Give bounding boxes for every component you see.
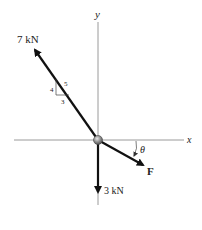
angle-theta-label: θ bbox=[140, 144, 145, 155]
x-axis-label: x bbox=[186, 134, 192, 145]
force-F-label: F bbox=[147, 165, 154, 177]
slope-run-label: 3 bbox=[61, 98, 65, 106]
slope-hyp-label: 5 bbox=[64, 80, 68, 88]
y-axis-label: y bbox=[94, 8, 100, 20]
particle-icon bbox=[94, 136, 103, 145]
force-3kn-label: 3 kN bbox=[104, 185, 124, 196]
angle-theta-arc bbox=[134, 141, 137, 156]
force-7kn-label: 7 kN bbox=[17, 33, 39, 45]
force-diagram: y x 7 kN 4 3 5 3 kN F θ bbox=[0, 0, 202, 230]
slope-rise-label: 4 bbox=[50, 86, 54, 94]
